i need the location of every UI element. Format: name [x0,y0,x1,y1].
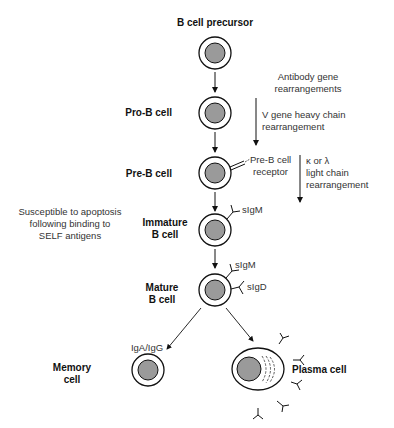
cell-pre-b [199,157,245,189]
note-vgene: V gene heavy chain [262,109,345,120]
b-cell-development-diagram: B cell precursor Pro-B cell Antibody gen… [0,0,394,428]
stage-label-precursor: B cell precursor [177,17,253,28]
label-sigd-mature: sIgD [247,281,267,292]
note-apoptosis-2: following binding to [30,218,111,229]
antibody-icon [231,281,244,294]
cell-pro-b [199,97,231,129]
note-light-3: rearrangement [306,179,369,190]
arrow-to-plasma [226,308,253,341]
stage-label-mature: Mature [146,282,179,293]
stage-label-pro-b: Pro-B cell [125,107,172,118]
stage-label-mature-2: B cell [149,294,176,305]
note-light-2: light chain [306,167,349,178]
cell-plasma [232,348,284,390]
cell-precursor [199,37,231,69]
stage-label-immature-2: B cell [152,229,179,240]
stage-label-memory: Memory [53,362,92,373]
stage-label-immature: Immature [142,217,187,228]
stage-label-memory-2: cell [64,374,81,385]
cell-mature-b [199,264,244,306]
cell-immature-b [199,205,240,246]
note-light: κ or λ [306,155,329,166]
note-apoptosis-3: SELF antigens [39,230,102,241]
arrow-to-memory [167,308,201,349]
stage-label-plasma: Plasma cell [292,364,347,375]
note-apoptosis: Susceptible to apoptosis [19,206,122,217]
note-preb-receptor: Pre-B cell [250,154,291,165]
label-sigm-immature: sIgM [242,204,263,215]
antibody-icon [227,205,240,219]
note-preb-receptor-2: receptor [253,166,288,177]
note-antibody-2: rearrangements [274,83,341,94]
label-iga-igg: IgA/IgG [131,342,163,353]
label-sigm-mature: sIgM [235,259,256,270]
note-vgene-2: rearrangement [262,121,325,132]
stage-label-pre-b: Pre-B cell [126,168,172,179]
note-antibody: Antibody gene [278,71,339,82]
cell-memory [132,354,164,386]
